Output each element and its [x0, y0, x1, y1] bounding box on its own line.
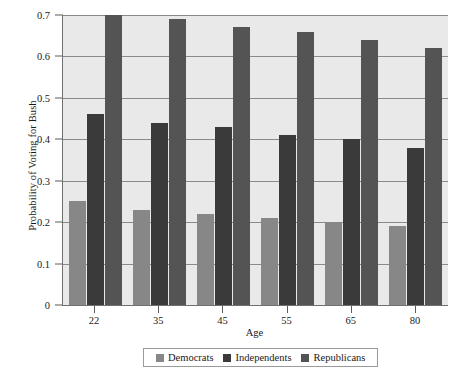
x-tick-mark [94, 306, 95, 313]
x-tick-label: 35 [126, 315, 190, 326]
legend-label: Democrats [168, 352, 213, 363]
x-tick-mark [415, 306, 416, 313]
y-tick-label: 0.2 [37, 217, 50, 228]
bar [425, 48, 442, 305]
bar [407, 148, 424, 305]
y-axis-ticks: 00.10.20.30.40.50.60.7 [0, 0, 62, 378]
bar [261, 218, 278, 305]
y-tick-label: 0.1 [37, 258, 50, 269]
legend-label: Independents [235, 352, 291, 363]
bar-group [63, 15, 127, 305]
x-axis-label: Age [62, 327, 447, 338]
bar [169, 19, 186, 305]
legend-entry[interactable]: Democrats [156, 352, 213, 363]
y-tick-label: 0.6 [37, 51, 50, 62]
bar [215, 127, 232, 305]
bar [69, 201, 86, 305]
bar [389, 226, 406, 305]
x-tick-label: 45 [190, 315, 254, 326]
legend-entry[interactable]: Republicans [301, 352, 365, 363]
x-tick-label: 55 [255, 315, 319, 326]
bar [343, 139, 360, 305]
bar [105, 15, 122, 305]
x-tick-mark [222, 306, 223, 313]
bar-group [127, 15, 191, 305]
x-tick-label: 80 [383, 315, 447, 326]
y-tick-label: 0.5 [37, 92, 50, 103]
chart-legend: DemocratsIndependentsRepublicans [143, 348, 378, 367]
legend-label: Republicans [313, 352, 365, 363]
bar [325, 222, 342, 305]
plot-area [62, 15, 448, 306]
y-tick-label: 0.7 [37, 10, 50, 21]
y-tick-label: 0.3 [37, 175, 50, 186]
bar-group [256, 15, 320, 305]
chart-figure: Probability of Voting for Bush 00.10.20.… [0, 0, 465, 378]
bar-groups [63, 15, 448, 305]
bar [279, 135, 296, 305]
legend-swatch-icon [301, 354, 309, 362]
x-tick-label: 22 [62, 315, 126, 326]
bar [197, 214, 214, 305]
bar [297, 32, 314, 305]
bar-group [320, 15, 384, 305]
bar [361, 40, 378, 305]
x-tick-mark [287, 306, 288, 313]
legend-entry[interactable]: Independents [223, 352, 291, 363]
x-tick-mark [158, 306, 159, 313]
y-tick-label: 0 [45, 300, 50, 311]
legend-swatch-icon [223, 354, 231, 362]
bar-group [191, 15, 255, 305]
bar [233, 27, 250, 305]
bar [133, 210, 150, 305]
y-tick-label: 0.4 [37, 134, 50, 145]
legend-swatch-icon [156, 354, 164, 362]
x-tick-label: 65 [319, 315, 383, 326]
bar [87, 114, 104, 305]
bar-group [384, 15, 448, 305]
x-tick-mark [351, 306, 352, 313]
bar [151, 123, 168, 305]
